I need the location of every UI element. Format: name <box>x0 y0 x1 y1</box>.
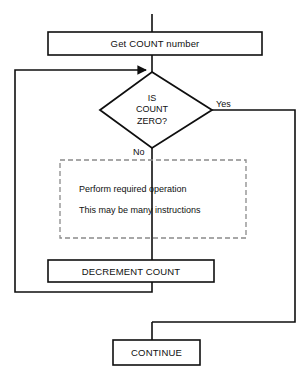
node-get-count-box <box>48 32 262 55</box>
node-continue-box <box>113 340 200 365</box>
node-decrement-box <box>48 260 214 282</box>
edge-yes-path <box>152 110 295 322</box>
flowchart-graphics <box>0 0 307 380</box>
node-decision-diamond <box>100 72 212 148</box>
node-operation-dashed-box <box>60 160 246 238</box>
flowchart-canvas: Get COUNT number IS COUNT ZERO? Yes No P… <box>0 0 307 380</box>
